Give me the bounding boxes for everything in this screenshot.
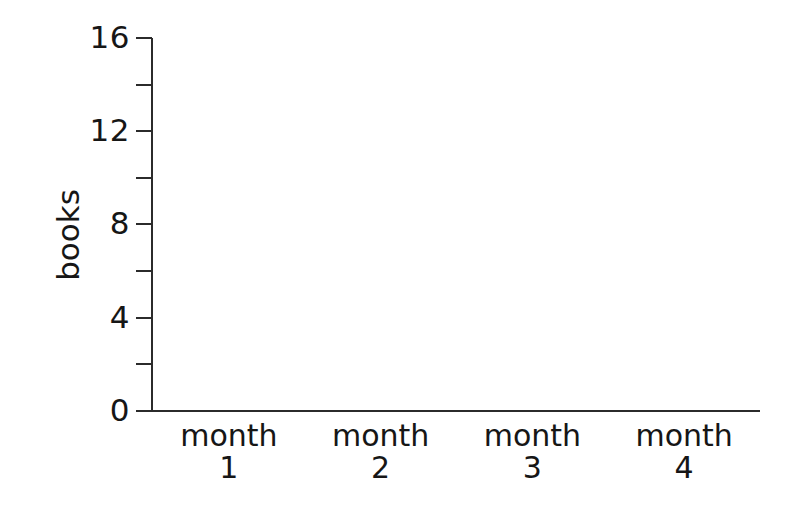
x-axis-category-label: month3 xyxy=(457,420,609,485)
x-axis-category-number: 4 xyxy=(608,452,760,484)
y-axis-tick xyxy=(136,84,152,86)
y-axis-tick-label: 16 xyxy=(0,22,136,53)
bar-chart: books 0481216 month1month2month3month4 xyxy=(0,0,795,528)
x-axis-category-name: month xyxy=(608,420,760,452)
y-axis-tick-label: 4 xyxy=(0,302,136,333)
x-axis-category-label: month2 xyxy=(305,420,457,485)
plot-area xyxy=(153,38,760,410)
y-axis-tick xyxy=(136,317,152,319)
y-axis-tick xyxy=(136,223,152,225)
x-axis-category-number: 3 xyxy=(457,452,609,484)
y-axis-tick xyxy=(136,177,152,179)
y-axis-tick-label: 12 xyxy=(0,115,136,146)
x-axis-category-number: 1 xyxy=(153,452,305,484)
y-axis-tick xyxy=(136,130,152,132)
x-axis-categories: month1month2month3month4 xyxy=(153,420,760,485)
y-axis-tick-label: 8 xyxy=(0,208,136,239)
y-axis-tick xyxy=(136,37,152,39)
y-axis-tick xyxy=(136,270,152,272)
y-axis-tick xyxy=(136,410,152,412)
x-axis-category-number: 2 xyxy=(305,452,457,484)
x-axis-category-name: month xyxy=(153,420,305,452)
x-axis-category-label: month4 xyxy=(608,420,760,485)
x-axis-category-name: month xyxy=(457,420,609,452)
x-axis-line xyxy=(151,410,760,412)
x-axis-category-label: month1 xyxy=(153,420,305,485)
y-axis-tick-label: 0 xyxy=(0,395,136,426)
y-axis-tick xyxy=(136,363,152,365)
x-axis-category-name: month xyxy=(305,420,457,452)
